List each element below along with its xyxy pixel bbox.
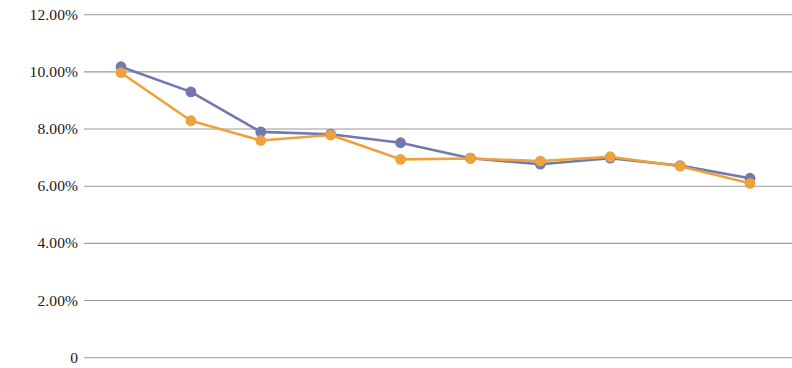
- plot-area: [0, 0, 792, 368]
- data-point-marker: [325, 130, 336, 141]
- data-point-marker: [395, 154, 406, 165]
- series-markers: [116, 61, 756, 188]
- data-point-marker: [185, 115, 196, 126]
- series-line: [121, 73, 750, 184]
- series-line: [121, 67, 750, 178]
- data-point-marker: [395, 137, 406, 148]
- data-point-marker: [465, 153, 476, 164]
- data-point-marker: [535, 156, 546, 167]
- data-point-marker: [745, 178, 756, 189]
- data-point-marker: [185, 86, 196, 97]
- gridlines: [84, 15, 792, 358]
- data-point-marker: [605, 151, 616, 162]
- data-point-marker: [116, 67, 127, 78]
- line-chart: 12.00%10.00%8.00%6.00%4.00%2.00%0: [0, 0, 792, 368]
- data-point-marker: [255, 135, 266, 146]
- series-lines: [121, 67, 750, 184]
- data-point-marker: [675, 161, 686, 172]
